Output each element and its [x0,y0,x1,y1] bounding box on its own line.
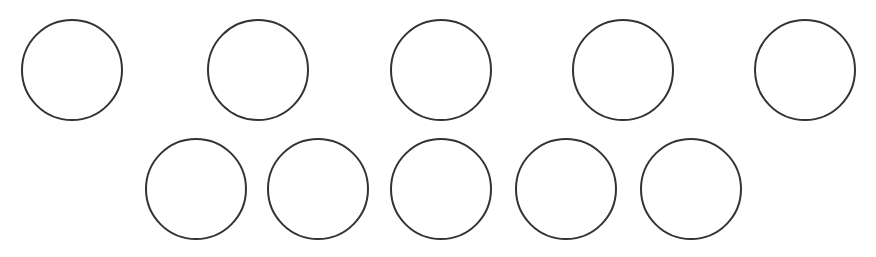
top-row-circle-4 [572,19,674,121]
bottom-row-circle-1 [145,138,247,240]
circles-diagram [0,0,876,257]
bottom-row-circle-5 [640,138,742,240]
top-row-circle-2 [207,19,309,121]
bottom-row-circle-3 [390,138,492,240]
bottom-row-circle-4 [515,138,617,240]
top-row-circle-3 [390,19,492,121]
top-row-circle-5 [754,19,856,121]
top-row-circle-1 [21,19,123,121]
bottom-row-circle-2 [267,138,369,240]
